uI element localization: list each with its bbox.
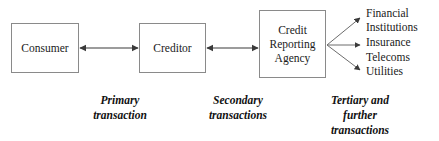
connector-cra-financial-institutions — [327, 18, 360, 45]
node-credit-reporting-agency: Credit Reporting Agency — [259, 10, 326, 78]
node-creditor-label: Creditor — [150, 41, 194, 55]
connector-cra-telecoms — [327, 45, 360, 70]
node-consumer: Consumer — [11, 23, 79, 73]
endpoint-financial-institutions: Financial Institutions — [366, 6, 418, 35]
node-consumer-label: Consumer — [18, 41, 71, 55]
node-credit-reporting-agency-label: Credit Reporting Agency — [267, 23, 319, 65]
endpoint-telecoms: Telecoms — [366, 50, 410, 64]
node-creditor: Creditor — [139, 23, 206, 73]
caption-primary-transaction: Primary transaction — [60, 93, 180, 123]
endpoint-insurance: Insurance — [366, 35, 411, 49]
endpoint-utilities: Utilities — [366, 64, 403, 78]
caption-secondary-transactions: Secondary transactions — [178, 93, 298, 123]
credit-reporting-diagram: Consumer Creditor Credit Reporting Agenc… — [0, 0, 439, 141]
caption-tertiary-further-transactions: Tertiary and further transactions — [300, 93, 420, 138]
